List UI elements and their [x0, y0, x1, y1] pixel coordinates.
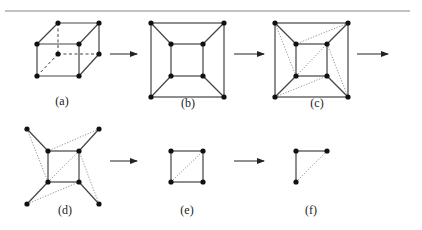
panel-f-triangle: (f) [293, 148, 329, 217]
panel-c-label: (c) [310, 96, 323, 110]
panel-f-label: (f) [305, 203, 317, 217]
panel-e-label: (e) [180, 203, 193, 217]
panel-a-label: (a) [55, 94, 68, 108]
panel-d-label: (d) [58, 203, 72, 217]
panel-e-square: (e) [168, 148, 205, 217]
panel-b-label: (b) [181, 96, 195, 110]
panel-d-detached: (d) [24, 126, 101, 217]
graph-reduction-figure: (a) (b) [0, 0, 422, 230]
panel-b-planar-cube: (b) [148, 20, 226, 110]
panel-c-triangulated: (c) [272, 20, 350, 110]
panel-a-cube: (a) [34, 20, 101, 108]
